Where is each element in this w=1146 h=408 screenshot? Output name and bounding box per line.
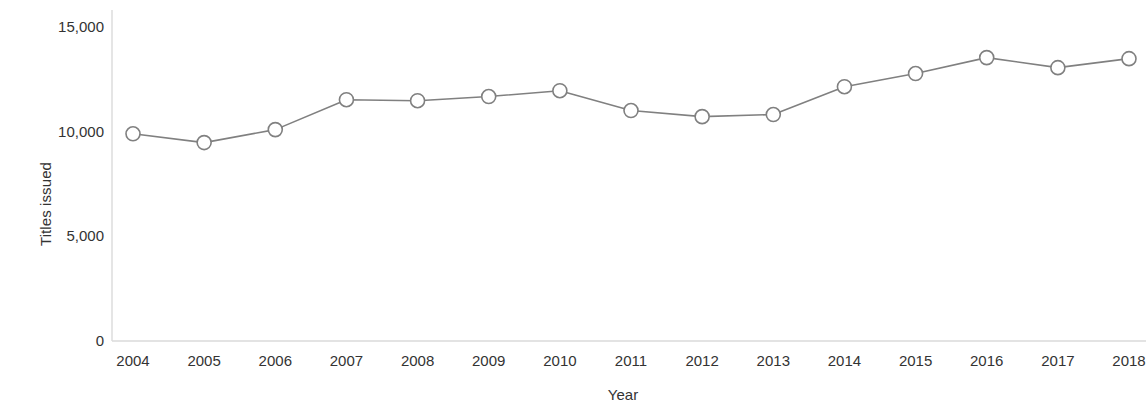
- x-tick-label: 2013: [757, 352, 790, 369]
- x-tick-label: 2009: [472, 352, 505, 369]
- x-axis-tick-labels: 2004200520062007200820092010201120122013…: [0, 0, 1146, 408]
- x-tick-label: 2014: [828, 352, 861, 369]
- x-tick-label: 2010: [543, 352, 576, 369]
- x-tick-label: 2012: [685, 352, 718, 369]
- line-chart: Titles issued 15,000 10,000 5,000 0 2004…: [0, 0, 1146, 408]
- x-tick-label: 2018: [1112, 352, 1145, 369]
- x-tick-label: 2016: [970, 352, 1003, 369]
- x-tick-label: 2006: [259, 352, 292, 369]
- x-tick-label: 2008: [401, 352, 434, 369]
- x-tick-label: 2011: [615, 352, 647, 369]
- x-axis-title: Year: [112, 386, 1134, 403]
- x-tick-label: 2015: [899, 352, 932, 369]
- x-tick-label: 2017: [1041, 352, 1074, 369]
- x-tick-label: 2004: [116, 352, 149, 369]
- x-tick-label: 2007: [330, 352, 363, 369]
- x-tick-label: 2005: [187, 352, 220, 369]
